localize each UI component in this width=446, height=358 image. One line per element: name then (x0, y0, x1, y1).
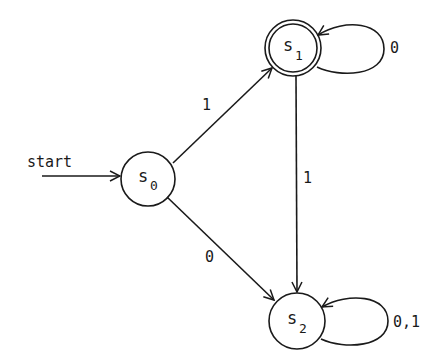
state-s1-name: s (283, 35, 293, 55)
state-diagram: start s 0 s 1 s 2 1 0 1 0 (0, 0, 446, 358)
transition-s1-loop-label: 0 (390, 39, 399, 57)
transition-s1-s2: 1 (296, 76, 312, 292)
state-s2-subscript: 2 (299, 321, 307, 336)
transition-s0-s2: 0 (167, 197, 274, 300)
state-s2-name: s (287, 308, 297, 328)
transition-s1-self-loop: 0 (317, 25, 399, 73)
state-s0-subscript: 0 (150, 178, 158, 193)
state-s1-subscript: 1 (295, 48, 303, 63)
state-s0-name: s (138, 166, 148, 186)
start-arrow: start (27, 153, 120, 176)
transition-s1-loop-arrow (317, 25, 384, 73)
transition-s2-loop-arrow (321, 298, 388, 345)
transition-s0-s1: 1 (173, 68, 272, 163)
state-s2: s 2 (269, 293, 325, 349)
state-s1: s 1 (265, 20, 321, 76)
transition-s0-s1-label: 1 (202, 96, 211, 114)
start-label: start (27, 153, 72, 171)
transition-s0-s1-arrow (173, 68, 272, 163)
transition-s1-s2-label: 1 (303, 169, 312, 187)
transition-s2-loop-label: 0,1 (393, 313, 420, 331)
transition-s0-s2-arrow (167, 197, 274, 300)
transition-s1-s2-arrow (296, 76, 297, 292)
transition-s2-self-loop: 0,1 (321, 298, 420, 345)
transition-s0-s2-label: 0 (205, 248, 214, 266)
